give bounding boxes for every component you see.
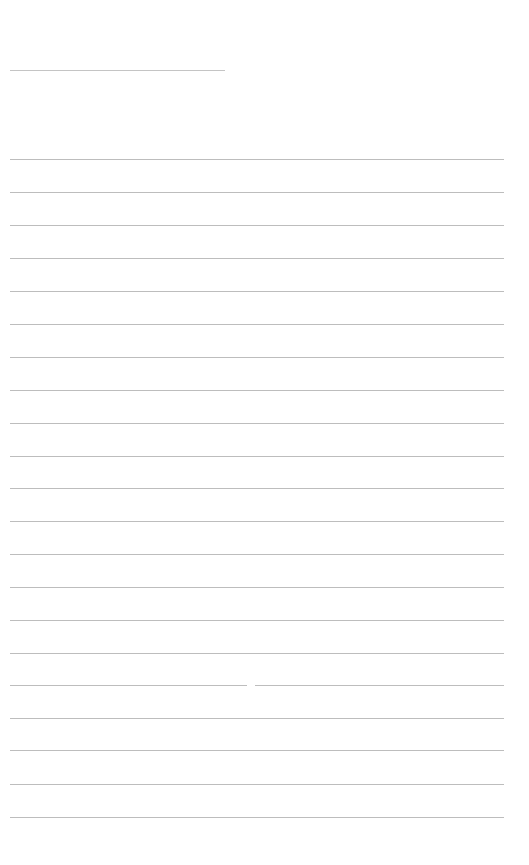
ruled-line: [10, 390, 504, 391]
ruled-line: [10, 521, 504, 522]
ruled-line: [10, 653, 504, 654]
ruled-line: [10, 488, 504, 489]
ruled-line: [10, 718, 504, 719]
ruled-line: [10, 324, 504, 325]
ruled-line: [10, 685, 504, 686]
lined-page: [0, 0, 529, 865]
ruled-line: [10, 423, 504, 424]
ruled-line: [10, 159, 504, 160]
ruled-line: [10, 258, 504, 259]
header-write-line: [10, 70, 225, 71]
ruled-line: [10, 291, 504, 292]
ruled-line: [10, 357, 504, 358]
ruled-line: [10, 225, 504, 226]
ruled-line: [10, 587, 504, 588]
ruled-line: [10, 784, 504, 785]
ruled-line: [10, 817, 504, 818]
line-gap: [247, 685, 255, 686]
ruled-line: [10, 554, 504, 555]
ruled-line: [10, 456, 504, 457]
ruled-line: [10, 192, 504, 193]
ruled-line: [10, 750, 504, 751]
ruled-line: [10, 620, 504, 621]
